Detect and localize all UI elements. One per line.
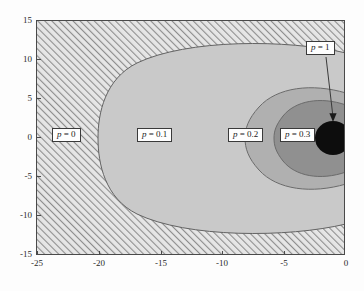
contour-label-p01-value: = 0.1 [147, 129, 168, 139]
contour-label-p0-value: = 0 [62, 129, 76, 139]
x-tick-mark-neg5 [284, 251, 285, 255]
contour-label-p02: p = 0.2 [228, 128, 263, 142]
y-tick-label-5: 5 [14, 93, 32, 103]
contour-label-p02-value: = 0.2 [238, 129, 259, 139]
contour-label-p01: p = 0.1 [137, 128, 172, 142]
y-tick-mark-0 [37, 137, 41, 138]
y-tick-label-0: 0 [14, 132, 32, 142]
figure-canvas: 15 10 5 0 -5 -10 -15 -25 -20 -15 -10 -5 … [0, 0, 364, 291]
x-tick-mark-neg10 [222, 251, 223, 255]
x-tick-mark-neg25 [37, 251, 38, 255]
x-tick-mark-neg20 [99, 251, 100, 255]
contour-label-p1: p = 1 [306, 41, 335, 55]
contour-label-p1-value: = 1 [316, 42, 330, 52]
y-tick-label-10: 10 [14, 54, 32, 64]
y-tick-mark-neg10 [37, 215, 41, 216]
contour-label-p03: p = 0.3 [280, 128, 315, 142]
x-tick-label-neg25: -25 [26, 258, 48, 268]
x-tick-label-neg15: -15 [150, 258, 172, 268]
x-tick-mark-neg15 [161, 251, 162, 255]
contour-label-p0: p = 0 [52, 128, 81, 142]
y-tick-mark-15 [37, 20, 41, 21]
y-tick-mark-neg5 [37, 176, 41, 177]
x-tick-label-neg20: -20 [88, 258, 110, 268]
y-tick-mark-5 [37, 98, 41, 99]
plot-area: p = 0 p = 0.1 p = 0.2 p = 0.3 p = 1 [36, 20, 345, 255]
y-tick-label-15: 15 [14, 15, 32, 25]
x-tick-label-neg5: -5 [273, 258, 295, 268]
x-tick-label-0: 0 [335, 258, 357, 268]
y-tick-mark-10 [37, 59, 41, 60]
y-tick-label-neg5: -5 [10, 171, 32, 181]
x-tick-mark-0 [344, 251, 345, 255]
contour-label-p03-value: = 0.3 [290, 129, 311, 139]
y-tick-label-neg10: -10 [10, 210, 32, 220]
x-tick-label-neg10: -10 [211, 258, 233, 268]
